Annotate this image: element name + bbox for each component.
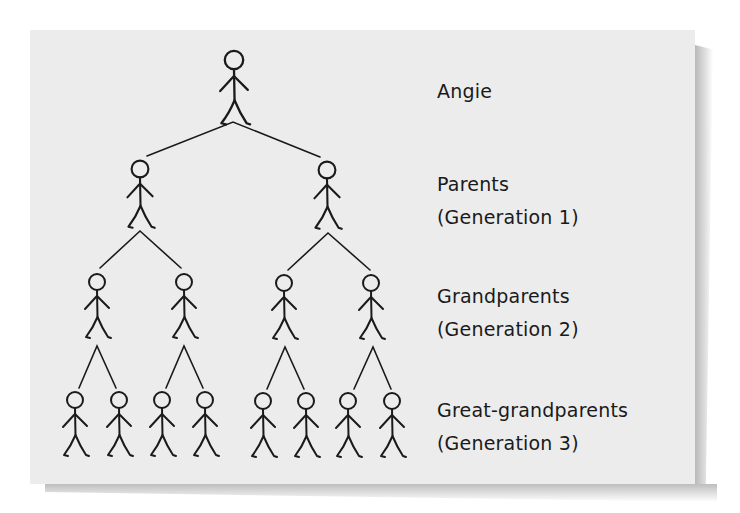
generation-labels: Angie Parents (Generation 1) Grandparent…	[0, 0, 740, 513]
label-angie-name: Angie	[437, 75, 492, 108]
label-great-grandparents-name: Great-grandparents	[437, 394, 628, 427]
label-great-grandparents-generation: (Generation 3)	[437, 427, 628, 460]
label-angie: Angie	[437, 75, 492, 108]
label-parents: Parents (Generation 1)	[437, 168, 579, 234]
label-parents-name: Parents	[437, 168, 579, 201]
label-parents-generation: (Generation 1)	[437, 201, 579, 234]
label-grandparents-generation: (Generation 2)	[437, 313, 579, 346]
label-grandparents-name: Grandparents	[437, 280, 579, 313]
label-grandparents: Grandparents (Generation 2)	[437, 280, 579, 346]
label-great-grandparents: Great-grandparents (Generation 3)	[437, 394, 628, 460]
